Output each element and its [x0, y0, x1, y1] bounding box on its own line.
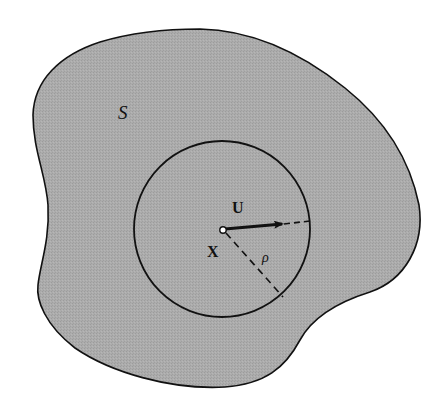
diagram-canvas: S U X ρ — [0, 0, 447, 407]
region-s-shape — [33, 29, 420, 387]
vector-u-label: U — [232, 199, 244, 216]
point-x-label: X — [207, 243, 219, 260]
radius-rho-label: ρ — [261, 250, 269, 265]
center-point-x-marker — [220, 227, 226, 233]
region-s-label: S — [118, 102, 128, 123]
